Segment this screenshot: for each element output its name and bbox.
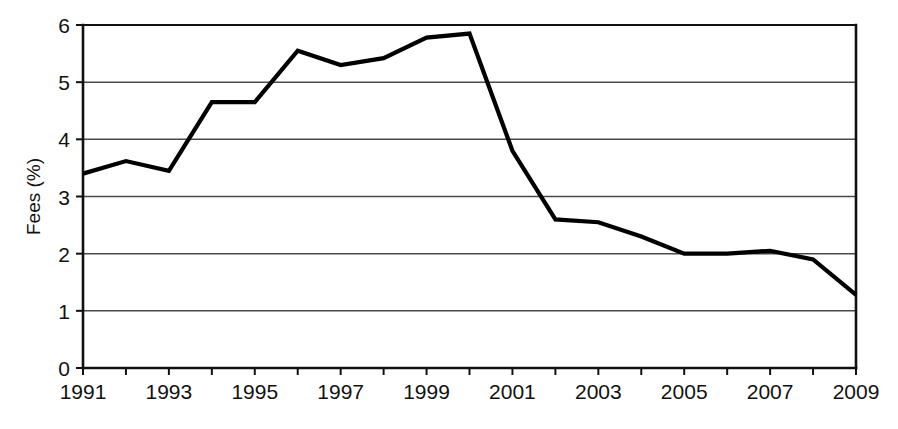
y-tick-label-0: 0 bbox=[58, 357, 70, 380]
y-tick-label-1: 1 bbox=[58, 300, 70, 323]
y-axis-tick-labels: 0123456 bbox=[58, 14, 70, 380]
y-tick-label-6: 6 bbox=[58, 14, 70, 37]
x-axis-tick-labels: 1991199319951997199920012003200520072009 bbox=[60, 380, 880, 403]
data-series-fees bbox=[83, 34, 856, 295]
x-tick-label-1995: 1995 bbox=[231, 380, 278, 403]
x-tick-label-2003: 2003 bbox=[575, 380, 622, 403]
gridlines bbox=[83, 25, 856, 311]
y-tick-label-5: 5 bbox=[58, 71, 70, 94]
y-tick-label-2: 2 bbox=[58, 243, 70, 266]
line-chart: 0123456 19911993199519971999200120032005… bbox=[0, 0, 898, 429]
x-tick-label-1997: 1997 bbox=[317, 380, 364, 403]
chart-figure: 0123456 19911993199519971999200120032005… bbox=[0, 0, 898, 429]
x-tick-label-1999: 1999 bbox=[403, 380, 450, 403]
x-tick-label-2009: 2009 bbox=[833, 380, 880, 403]
y-axis-title: Fees (%) bbox=[23, 158, 44, 235]
y-tick-label-3: 3 bbox=[58, 186, 70, 209]
x-tick-label-2001: 2001 bbox=[489, 380, 536, 403]
x-tick-label-2005: 2005 bbox=[661, 380, 708, 403]
x-tick-label-2007: 2007 bbox=[747, 380, 794, 403]
y-tick-label-4: 4 bbox=[58, 128, 70, 151]
x-tick-label-1991: 1991 bbox=[60, 380, 107, 403]
x-tick-label-1993: 1993 bbox=[146, 380, 193, 403]
